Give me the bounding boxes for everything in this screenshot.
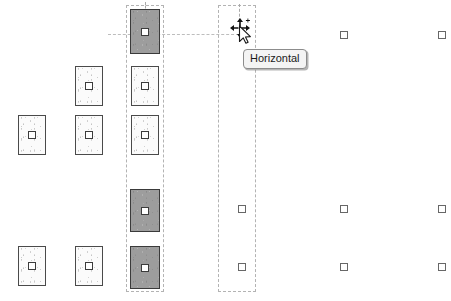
- fixture-center-nub-icon: [141, 28, 149, 36]
- fixture-center-nub-icon: [85, 82, 93, 90]
- fixture-center-nub-icon: [141, 264, 149, 272]
- fixture-c3-r2[interactable]: [131, 66, 159, 106]
- marker-c6-r1[interactable]: [438, 31, 446, 39]
- marker-c6-r5[interactable]: [438, 263, 446, 271]
- fixture-c3-r1[interactable]: [130, 9, 160, 54]
- fixture-c3-r4[interactable]: [130, 189, 160, 232]
- marker-c5-r1[interactable]: [340, 31, 348, 39]
- fixture-c2-r2[interactable]: [75, 66, 103, 106]
- move-cursor-icon: [228, 16, 262, 50]
- tooltip-horizontal: Horizontal: [243, 49, 307, 69]
- fixture-center-nub-icon: [85, 131, 93, 139]
- fixture-center-nub-icon: [141, 82, 149, 90]
- fixture-c1-r3[interactable]: [18, 115, 46, 155]
- fixture-center-nub-icon: [141, 131, 149, 139]
- marker-c4-r4[interactable]: [238, 205, 246, 213]
- fixture-center-nub-icon: [141, 207, 149, 215]
- fixture-c3-r5[interactable]: [130, 246, 160, 289]
- marker-c5-r5[interactable]: [340, 263, 348, 271]
- fixture-center-nub-icon: [28, 131, 36, 139]
- guide-horizontal-align: [108, 34, 239, 35]
- marker-c4-r5[interactable]: [238, 263, 246, 271]
- fixture-center-nub-icon: [28, 262, 36, 270]
- fixture-c2-r3[interactable]: [75, 115, 103, 155]
- fixture-center-nub-icon: [85, 262, 93, 270]
- fixture-c1-r5[interactable]: [18, 246, 46, 286]
- fixture-c2-r5[interactable]: [75, 246, 103, 286]
- marker-c6-r4[interactable]: [438, 205, 446, 213]
- drawing-canvas[interactable]: Horizontal: [0, 0, 451, 301]
- marker-c5-r4[interactable]: [340, 205, 348, 213]
- fixture-c3-r3[interactable]: [131, 115, 159, 155]
